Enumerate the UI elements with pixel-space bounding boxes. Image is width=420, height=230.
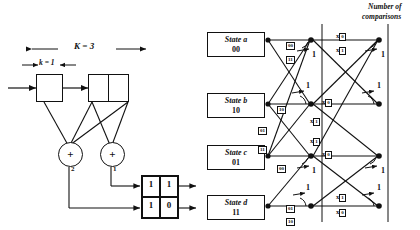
- metric-label-c-bot: x0: [322, 150, 332, 159]
- trellis-node-d2: [376, 203, 382, 209]
- metric-label-d-top: x1: [336, 193, 346, 202]
- comparison-count-s2-b: 1: [377, 81, 381, 90]
- branch-label-c-upper: 11: [258, 137, 267, 155]
- trellis-node-b0: [265, 101, 270, 106]
- comparison-count-s1-a: 1: [312, 50, 316, 59]
- trellis-node-a0: [265, 37, 270, 42]
- comparison-count-s2-c: 1: [381, 166, 385, 175]
- trellis-node-a1: [308, 37, 314, 43]
- metric-label-b-top: x0: [322, 98, 332, 107]
- branch-label-a-lower: 11: [286, 47, 295, 65]
- trellis-node-b1: [308, 101, 314, 107]
- trellis-node-d1: [308, 203, 314, 209]
- metric-label-c-top: x1: [310, 137, 320, 146]
- figure-canvas: K = 3 k = 1 + 2 + 1 1 1 1 0 Number of co…: [0, 0, 420, 230]
- comparison-count-s1-b: 1: [306, 81, 310, 90]
- comparison-count-s1-d: 1: [306, 183, 310, 192]
- trellis-node-b2: [376, 101, 382, 107]
- trellis-node-d0: [265, 203, 270, 208]
- comparison-count-s2-d: 1: [377, 183, 381, 192]
- metric-label-a-top: x0: [336, 32, 346, 41]
- trellis-node-a2: [376, 37, 382, 43]
- metric-label-d-bot: x0: [336, 208, 346, 217]
- branch-label-d-lower: 10: [286, 209, 295, 227]
- metric-label-a-bot: x1: [336, 46, 346, 55]
- metric-label-b-bot: x1: [310, 117, 320, 126]
- branch-label-b-lower: 01: [258, 118, 267, 136]
- trellis-graph: [0, 0, 420, 230]
- comparison-count-s2-a: 1: [381, 50, 385, 59]
- trellis-node-c1: [308, 153, 314, 159]
- trellis-node-c2: [376, 153, 382, 159]
- branch-label-c-lower: 00: [277, 156, 286, 174]
- branch-label-b-upper: 10: [277, 97, 286, 115]
- comparison-count-s1-c: 1: [312, 166, 316, 175]
